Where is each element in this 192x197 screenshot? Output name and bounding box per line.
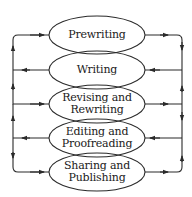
stage-label-line2: Rewriting xyxy=(49,104,145,116)
stage-label-line1: Writing xyxy=(77,63,117,76)
stage-label-editing: Editing and Proofreading xyxy=(49,126,145,150)
stage-label-line2: Publishing xyxy=(49,172,145,184)
right-connectors xyxy=(145,35,182,172)
left-connectors xyxy=(13,35,49,172)
stage-label-revising: Revising and Rewriting xyxy=(49,92,145,116)
stage-label-prewriting: Prewriting xyxy=(49,29,145,41)
stage-label-sharing: Sharing and Publishing xyxy=(49,160,145,184)
stage-label-line2: Proofreading xyxy=(49,138,145,150)
stage-label-line1: Prewriting xyxy=(68,28,125,41)
stage-label-writing: Writing xyxy=(49,64,145,76)
